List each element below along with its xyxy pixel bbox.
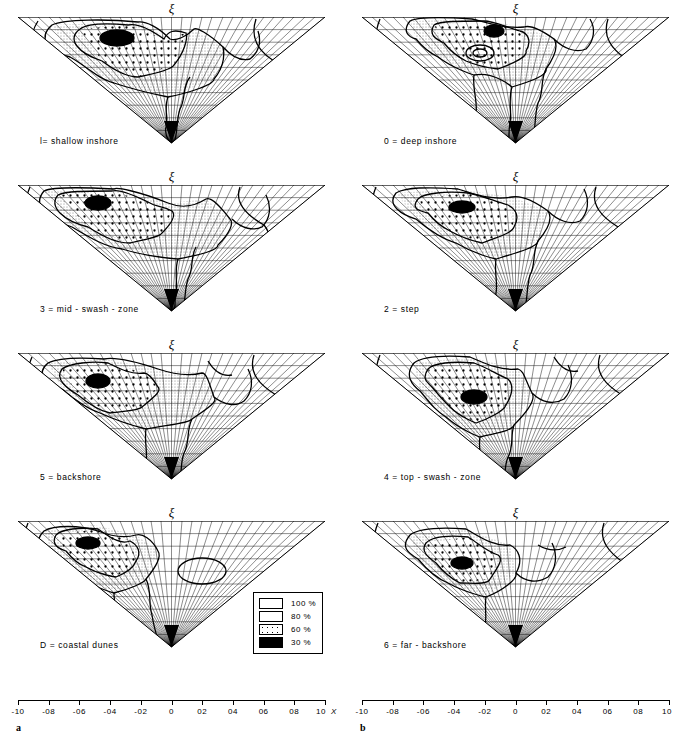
legend-label-30: 30 % [291, 638, 311, 647]
x-axis-tick [638, 700, 639, 705]
panel-coastal-dunes: ξ [0, 504, 343, 672]
x-tick-label: 06 [603, 707, 613, 716]
x-axis-tick [325, 700, 326, 705]
axis-label-xi: ξ [0, 338, 343, 351]
x-tick-label: 04 [228, 707, 238, 716]
x-axis-tick [141, 700, 142, 705]
x-tick-label: 04 [572, 707, 582, 716]
x-tick-label: -08 [42, 707, 55, 716]
figure-column-b: ξ [344, 0, 687, 741]
panel-label-coastal-dunes: D = coastal dunes [40, 640, 118, 650]
panel-shallow-inshore: ξ [0, 0, 343, 168]
x-tick-label: 08 [289, 707, 299, 716]
legend-swatch-100-icon [259, 598, 283, 609]
x-axis-tick [49, 700, 50, 705]
legend-label-80: 80 % [291, 612, 311, 621]
x-tick-label: -04 [104, 707, 117, 716]
legend-swatch-80-icon [259, 611, 283, 622]
x-tick-label: -10 [11, 707, 24, 716]
panel-step: ξ [344, 168, 687, 336]
x-tick-label: 10 [662, 707, 672, 716]
axis-label-xi: ξ [344, 2, 687, 15]
x-axis-tick [608, 700, 609, 705]
x-axis-tick [516, 700, 517, 705]
x-tick-label: -10 [355, 707, 368, 716]
panel-far-backshore: ξ [344, 504, 687, 672]
panel-label-top-swash-zone: 4 = top - swash - zone [384, 472, 481, 482]
legend-item-60: 60 % [259, 623, 316, 636]
figure-container: ξ [0, 0, 687, 741]
x-tick-label: -02 [478, 707, 491, 716]
legend-item-100: 100 % [259, 597, 316, 610]
panel-label-shallow-inshore: l= shallow inshore [40, 136, 119, 146]
x-axis-tick [485, 700, 486, 705]
x-axis-tick [233, 700, 234, 705]
axis-label-xi: ξ [344, 506, 687, 519]
subfigure-letter-a: a [16, 722, 21, 733]
x-axis-tick [202, 700, 203, 705]
legend: 100 % 80 % 60 % 30 % [253, 592, 323, 654]
x-tick-label: -02 [134, 707, 147, 716]
x-tick-label: -08 [386, 707, 399, 716]
legend-label-60: 60 % [291, 625, 311, 634]
panel-deep-inshore: ξ [344, 0, 687, 168]
x-tick-label: -06 [73, 707, 86, 716]
axis-label-xi: ξ [344, 170, 687, 183]
x-axis-tick [172, 700, 173, 705]
panel-label-mid-swash-zone: 3 = mid - swash - zone [40, 304, 139, 314]
x-axis-tick [393, 700, 394, 705]
panel-label-far-backshore: 6 = far - backshore [384, 640, 467, 650]
x-axis-tick [577, 700, 578, 705]
legend-swatch-60-icon [259, 624, 283, 635]
panel-mid-swash-zone: ξ [0, 168, 343, 336]
x-tick-label: -06 [417, 707, 430, 716]
x-axis-tick [546, 700, 547, 705]
x-tick-label: 02 [541, 707, 551, 716]
axis-label-xi: ξ [0, 170, 343, 183]
x-axis-tick [18, 700, 19, 705]
x-axis-tick [79, 700, 80, 705]
legend-item-80: 80 % [259, 610, 316, 623]
x-axis-column-a: -10 -08 -06 -04 -02 0 02 04 06 08 10 X [18, 700, 325, 734]
x-axis-tick [669, 700, 670, 705]
panel-label-deep-inshore: 0 = deep inshore [384, 136, 457, 146]
panel-label-step: 2 = step [384, 304, 419, 314]
axis-label-xi: ξ [0, 2, 343, 15]
x-tick-label: -04 [448, 707, 461, 716]
panel-backshore: ξ [0, 336, 343, 504]
x-tick-label: 0 [169, 707, 174, 716]
x-axis-tick [264, 700, 265, 705]
axis-label-x: X [331, 707, 336, 716]
legend-label-100: 100 % [291, 599, 316, 608]
x-axis-tick [362, 700, 363, 705]
x-tick-label: 08 [633, 707, 643, 716]
subfigure-letter-b: b [360, 722, 366, 733]
x-axis-tick [110, 700, 111, 705]
x-axis-tick [294, 700, 295, 705]
axis-label-xi: ξ [344, 338, 687, 351]
x-axis-tick [454, 700, 455, 705]
x-axis-column-b: -10 -08 -06 -04 -02 0 02 04 06 08 10 [362, 700, 669, 734]
x-tick-label: 02 [197, 707, 207, 716]
x-axis-tick [423, 700, 424, 705]
legend-swatch-30-icon [259, 637, 283, 648]
panel-label-backshore: 5 = backshore [40, 472, 101, 482]
panel-top-swash-zone: ξ [344, 336, 687, 504]
x-tick-label: 06 [259, 707, 269, 716]
x-tick-label: 0 [513, 707, 518, 716]
legend-item-30: 30 % [259, 636, 316, 649]
x-tick-label: 10 [316, 707, 326, 716]
axis-label-xi: ξ [0, 506, 343, 519]
figure-column-a: ξ [0, 0, 343, 741]
